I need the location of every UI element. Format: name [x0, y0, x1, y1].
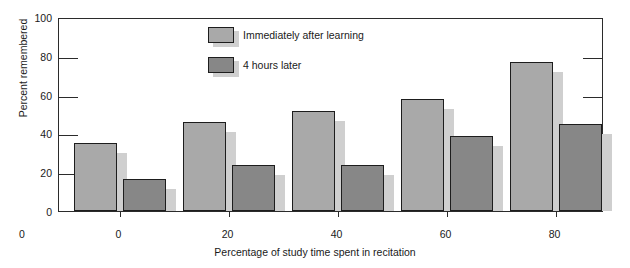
- bar[interactable]: [74, 143, 117, 211]
- bar[interactable]: [183, 122, 226, 211]
- origin-zero-label: 0: [12, 228, 32, 240]
- legend-label: 4 hours later: [243, 59, 301, 71]
- x-tick-label: 60: [426, 228, 466, 240]
- legend-label: Immediately after learning: [243, 29, 364, 41]
- x-tick-label: 0: [99, 228, 139, 240]
- x-axis-title: Percentage of study time spent in recita…: [0, 246, 630, 258]
- bar[interactable]: [559, 124, 602, 211]
- y-tick-label: 0: [16, 206, 52, 218]
- x-tick-label: 40: [317, 228, 357, 240]
- legend-item[interactable]: Immediately after learning: [208, 24, 364, 46]
- x-tick-label: 80: [535, 228, 575, 240]
- legend-item[interactable]: 4 hours later: [208, 54, 364, 76]
- legend: Immediately after learning 4 hours later: [208, 24, 364, 84]
- bar[interactable]: [341, 165, 384, 211]
- bar[interactable]: [510, 62, 553, 211]
- legend-swatch-4-hours-later-icon: [208, 57, 234, 73]
- legend-swatch-immediately-icon: [208, 27, 234, 43]
- y-tick-label: 60: [16, 90, 52, 102]
- y-tick-label: 100: [16, 12, 52, 24]
- x-tick-label: 20: [208, 228, 248, 240]
- bar[interactable]: [123, 179, 166, 211]
- bar[interactable]: [450, 136, 493, 211]
- y-tick-label: 20: [16, 167, 52, 179]
- y-tick-label: 40: [16, 128, 52, 140]
- bar[interactable]: [232, 165, 275, 211]
- bar[interactable]: [292, 111, 335, 211]
- bar[interactable]: [401, 99, 444, 211]
- y-tick-label: 80: [16, 51, 52, 63]
- bar-chart: Percent remembered 020406080100 02040608…: [0, 0, 630, 268]
